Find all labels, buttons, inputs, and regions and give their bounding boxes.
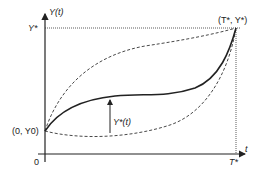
t-star-label: T*: [229, 157, 238, 167]
start-point-label: (0, Y0): [12, 126, 39, 136]
upper-alternative-path: [45, 28, 236, 131]
x-axis-label: t: [245, 144, 248, 154]
optimal-path: [45, 28, 236, 131]
y-axis-label: Y(t): [49, 7, 64, 17]
origin-label: 0: [34, 157, 39, 167]
optimal-path-label: Y*(t): [113, 117, 131, 127]
end-point-label: (T*, Y*): [218, 15, 247, 25]
y-star-label: Y*: [28, 23, 38, 33]
diagram-canvas: Y(t) t 0 Y* T* (0, Y0) (T*, Y*) Y*(t): [0, 0, 261, 179]
